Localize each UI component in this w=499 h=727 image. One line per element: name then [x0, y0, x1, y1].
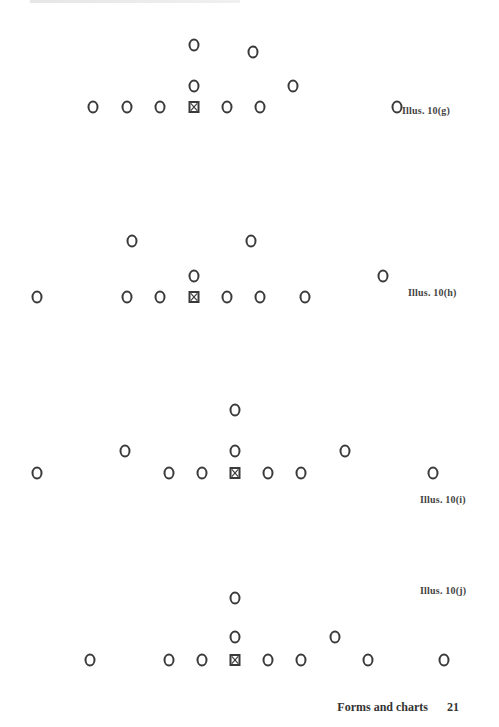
- center-boxed-x-icon: [230, 467, 241, 479]
- center-boxed-x-icon: [230, 654, 241, 666]
- player-circle-icon: [197, 467, 208, 480]
- center-boxed-x-icon: [189, 101, 200, 113]
- player-circle-icon: [32, 467, 43, 480]
- player-circle-icon: [189, 270, 200, 283]
- player-circle-icon: [122, 101, 133, 114]
- illustration-caption: Illus. 10(g): [402, 105, 450, 116]
- player-circle-icon: [88, 101, 99, 114]
- player-circle-icon: [189, 80, 200, 93]
- player-circle-icon: [222, 101, 233, 114]
- player-circle-icon: [378, 270, 389, 283]
- player-circle-icon: [428, 467, 439, 480]
- player-circle-icon: [230, 592, 241, 605]
- player-circle-icon: [197, 654, 208, 667]
- page-footer: Forms and charts 21: [337, 700, 459, 715]
- player-circle-icon: [248, 46, 259, 59]
- player-circle-icon: [255, 291, 266, 304]
- player-circle-icon: [330, 631, 341, 644]
- player-circle-icon: [296, 467, 307, 480]
- player-circle-icon: [246, 235, 257, 248]
- player-circle-icon: [164, 654, 175, 667]
- player-circle-icon: [189, 39, 200, 52]
- player-circle-icon: [296, 654, 307, 667]
- player-circle-icon: [164, 467, 175, 480]
- player-circle-icon: [222, 291, 233, 304]
- player-circle-icon: [155, 101, 166, 114]
- player-circle-icon: [122, 291, 133, 304]
- illustration-caption: Illus. 10(h): [408, 287, 457, 298]
- illustration-caption: Illus. 10(i): [420, 494, 466, 505]
- player-circle-icon: [300, 291, 311, 304]
- player-circle-icon: [127, 235, 138, 248]
- player-circle-icon: [439, 654, 450, 667]
- footer-section-title: Forms and charts: [337, 700, 428, 714]
- player-circle-icon: [288, 80, 299, 93]
- player-circle-icon: [32, 291, 43, 304]
- page-number: 21: [447, 700, 459, 714]
- player-circle-icon: [120, 445, 131, 458]
- player-circle-icon: [363, 654, 374, 667]
- player-circle-icon: [392, 101, 403, 114]
- illustration-caption: Illus. 10(j): [420, 585, 466, 596]
- cut-off-running-header: [30, 0, 240, 3]
- player-circle-icon: [263, 654, 274, 667]
- player-circle-icon: [255, 101, 266, 114]
- player-circle-icon: [230, 445, 241, 458]
- player-circle-icon: [230, 404, 241, 417]
- player-circle-icon: [263, 467, 274, 480]
- player-circle-icon: [85, 654, 96, 667]
- player-circle-icon: [230, 631, 241, 644]
- center-boxed-x-icon: [189, 291, 200, 303]
- player-circle-icon: [340, 445, 351, 458]
- player-circle-icon: [155, 291, 166, 304]
